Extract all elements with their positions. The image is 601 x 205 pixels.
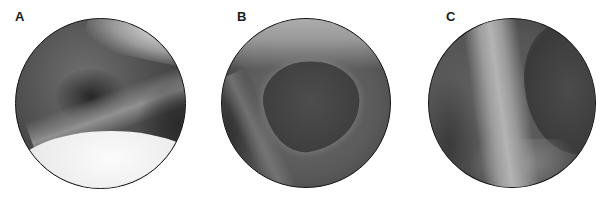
arthroscopic-image-c bbox=[428, 18, 596, 188]
panel-label-c: C bbox=[446, 9, 455, 24]
dark-right-region bbox=[524, 24, 596, 154]
arthroscopic-image-a bbox=[15, 18, 186, 189]
bright-upper-tissue bbox=[82, 18, 186, 71]
arthroscopic-image-b bbox=[221, 18, 391, 188]
panel-label-a: A bbox=[15, 9, 24, 24]
